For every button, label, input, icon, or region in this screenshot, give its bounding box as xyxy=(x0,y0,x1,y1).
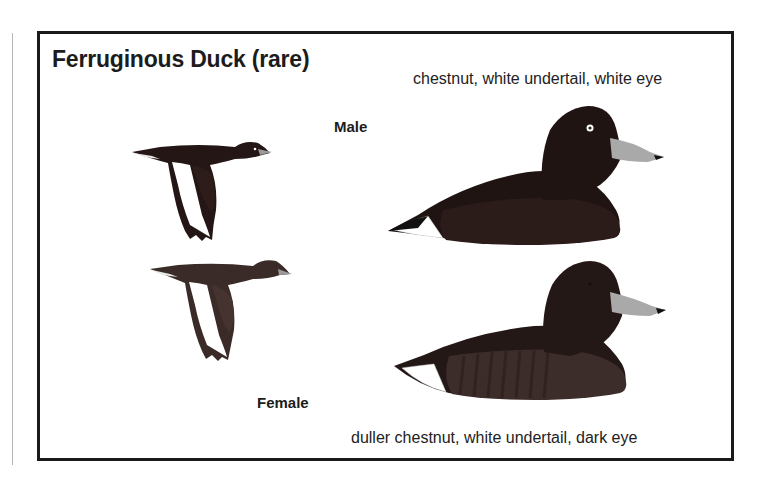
female-label: Female xyxy=(257,394,309,411)
female-swimming-duck xyxy=(394,260,679,405)
male-label: Male xyxy=(334,118,367,135)
male-flying-duck xyxy=(130,135,280,245)
page-margin-line xyxy=(12,33,13,465)
male-caption: chestnut, white undertail, white eye xyxy=(413,70,662,88)
plate-title: Ferruginous Duck (rare) xyxy=(52,46,309,73)
female-flying-duck xyxy=(148,255,298,365)
female-caption: duller chestnut, white undertail, dark e… xyxy=(351,429,637,447)
male-swimming-duck xyxy=(388,100,673,245)
